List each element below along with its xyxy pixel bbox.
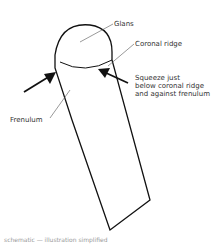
left-arrow-icon xyxy=(24,72,56,92)
glans-label: Glans xyxy=(114,20,134,28)
ridge-line xyxy=(60,60,112,68)
schematic-note: schematic — illustration simplified xyxy=(4,236,107,243)
outline-shape xyxy=(55,25,150,230)
coronal-ridge-label: Coronal ridge xyxy=(135,40,182,48)
right-arrow-icon xyxy=(98,68,128,83)
instruction-label: Squeeze just below coronal ridge and aga… xyxy=(135,74,210,98)
diagram-canvas: Glans Coronal ridge Squeeze just below c… xyxy=(0,0,223,246)
frenulum-label: Frenulum xyxy=(10,116,43,124)
